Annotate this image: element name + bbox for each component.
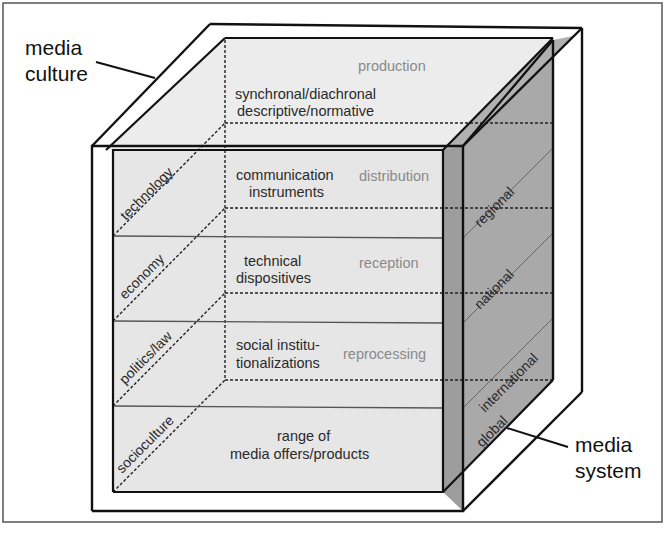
media-system-label-1: media: [575, 433, 633, 456]
top-caption-2: descriptive/normative: [237, 103, 374, 119]
layer-4-content-1: range of: [277, 428, 331, 444]
media-cube-diagram: media culture media system production sy…: [0, 0, 665, 538]
media-system-label-2: system: [575, 459, 642, 482]
layer-1-content-1: communication: [236, 167, 334, 183]
media-culture-label-1: media: [25, 36, 83, 59]
layer-2-content-2: dispositives: [236, 270, 311, 286]
media-culture-label-2: culture: [25, 62, 88, 85]
layer-2-content-1: technical: [244, 253, 301, 269]
side-strip: [443, 146, 463, 511]
layer-3-content-1: social institu-: [236, 337, 320, 353]
layer-4-content-2: media offers/products: [230, 446, 369, 462]
stage-distribution: distribution: [359, 168, 429, 184]
stage-production: production: [358, 58, 426, 74]
layer-3-content-2: tionalizations: [236, 355, 320, 371]
stage-reprocessing: reprocessing: [343, 346, 426, 362]
stage-reception: reception: [359, 255, 419, 271]
layer-1-content-2: instruments: [249, 184, 324, 200]
top-caption-1: synchronal/diachronal: [235, 86, 376, 102]
